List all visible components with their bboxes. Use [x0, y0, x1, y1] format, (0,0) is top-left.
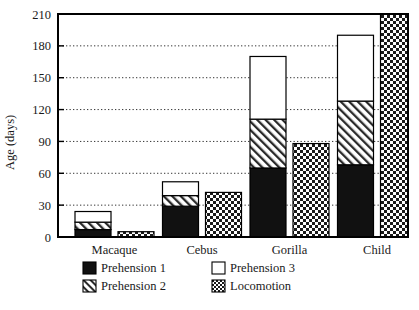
bar-chart-svg: Age (days) 0306090120150180210 MacaqueCe…: [0, 0, 419, 310]
bar-segment: [75, 230, 111, 237]
bar-segment: [338, 165, 374, 237]
x-category-label: Gorilla: [272, 243, 308, 257]
y-tick-label: 120: [32, 103, 51, 117]
bar-segment: [250, 168, 286, 237]
bar-segment: [338, 35, 374, 101]
bar-segment: [75, 222, 111, 229]
bar-segment: [250, 56, 286, 119]
legend-swatch: [212, 262, 225, 274]
bar-segment: [250, 119, 286, 168]
bar-segment: [163, 182, 199, 196]
legend-swatch: [83, 262, 96, 274]
legend: Prehension 1Prehension 3Prehension 2Loco…: [83, 261, 295, 293]
legend-label: Locomotion: [230, 279, 292, 293]
legend-label: Prehension 1: [101, 261, 166, 275]
legend-label: Prehension 2: [101, 279, 166, 293]
y-tick-label: 150: [32, 71, 51, 85]
bar-segment: [75, 212, 111, 223]
x-axis-category-labels: MacaqueCebusGorillaChild: [92, 243, 392, 257]
y-tick-label: 180: [32, 39, 51, 53]
y-tick-label: 60: [39, 167, 52, 181]
bar-segment: [163, 206, 199, 237]
legend-label: Prehension 3: [230, 261, 295, 275]
x-category-label: Child: [363, 243, 392, 257]
y-axis-title: Age (days): [3, 115, 17, 170]
y-tick-label: 210: [32, 8, 51, 22]
chart-container: Age (days) 0306090120150180210 MacaqueCe…: [0, 0, 419, 310]
x-category-label: Cebus: [186, 243, 217, 257]
bar-locomotion: [206, 192, 242, 237]
y-tick-label: 90: [39, 135, 52, 149]
x-category-label: Macaque: [92, 243, 138, 257]
y-tick-label: 30: [39, 199, 52, 213]
legend-swatch: [212, 280, 225, 292]
bar-locomotion: [381, 12, 417, 237]
bar-segment: [163, 196, 199, 207]
y-tick-label: 0: [45, 231, 51, 245]
bar-locomotion: [293, 144, 329, 237]
y-axis-ticks: 0306090120150180210: [32, 8, 64, 245]
y-axis-title-text: Age (days): [3, 115, 17, 170]
bar-segment: [338, 101, 374, 165]
legend-swatch: [83, 280, 96, 292]
